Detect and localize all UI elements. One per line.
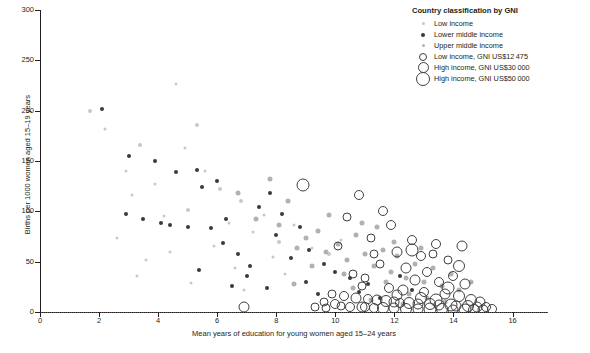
data-point bbox=[274, 233, 278, 237]
legend-item[interactable]: High income, GNI US$50 000 bbox=[412, 73, 590, 84]
data-point bbox=[289, 256, 293, 260]
open-circle-icon bbox=[419, 53, 427, 61]
data-point bbox=[236, 252, 240, 256]
data-point bbox=[251, 231, 254, 234]
data-point bbox=[197, 268, 201, 272]
data-point bbox=[292, 281, 297, 286]
data-point bbox=[221, 241, 225, 245]
data-point bbox=[136, 274, 139, 277]
data-point bbox=[410, 274, 421, 285]
data-point bbox=[189, 281, 192, 284]
data-point bbox=[153, 159, 157, 163]
legend-title: Country classification by GNI bbox=[412, 6, 590, 16]
data-point bbox=[233, 266, 236, 269]
data-point bbox=[400, 303, 412, 312]
legend-item-label: Low income, GNI US$12 475 bbox=[434, 52, 528, 62]
x-axis-title: Mean years of education for young women … bbox=[40, 329, 548, 338]
legend-item[interactable]: Upper middle income bbox=[412, 40, 590, 51]
legend: Country classification by GNI Low income… bbox=[412, 6, 590, 84]
data-point bbox=[277, 223, 282, 228]
data-point bbox=[215, 179, 219, 183]
data-point bbox=[422, 267, 432, 277]
data-point bbox=[415, 292, 427, 304]
filled-circle-icon bbox=[421, 33, 425, 37]
legend-item[interactable]: High income, GNI US$30 000 bbox=[412, 62, 590, 73]
data-point bbox=[238, 301, 249, 312]
data-point bbox=[115, 236, 118, 239]
data-point bbox=[316, 292, 320, 296]
data-point bbox=[354, 190, 364, 200]
data-point bbox=[141, 217, 145, 221]
x-tick-label: 16 bbox=[501, 316, 525, 325]
legend-item[interactable]: Low income bbox=[412, 18, 590, 29]
data-point bbox=[475, 296, 486, 307]
data-point bbox=[100, 107, 104, 111]
data-point bbox=[130, 194, 133, 197]
data-point bbox=[286, 199, 291, 204]
data-point bbox=[224, 217, 228, 221]
data-point bbox=[453, 260, 465, 272]
data-point bbox=[406, 243, 419, 256]
legend-item[interactable]: Low income, GNI US$12 475 bbox=[412, 51, 590, 62]
data-point bbox=[441, 281, 454, 294]
y-tick bbox=[35, 211, 40, 212]
data-point bbox=[457, 240, 468, 251]
data-point bbox=[103, 127, 106, 130]
data-point bbox=[398, 274, 402, 278]
legend-marker-icon bbox=[412, 33, 434, 37]
data-point bbox=[303, 235, 308, 240]
data-point bbox=[357, 281, 366, 290]
data-point bbox=[124, 212, 128, 216]
data-point bbox=[209, 226, 213, 230]
data-point bbox=[366, 233, 375, 242]
data-point bbox=[296, 179, 309, 192]
legend-item-label: High income, GNI US$50 000 bbox=[434, 74, 530, 84]
data-point bbox=[359, 221, 364, 226]
data-point bbox=[339, 291, 349, 301]
data-point bbox=[138, 143, 142, 147]
data-point bbox=[145, 258, 148, 261]
data-point bbox=[159, 221, 163, 225]
y-tick-label: 300 bbox=[8, 6, 34, 14]
filled-circle-icon bbox=[422, 44, 425, 47]
x-tick-label: 12 bbox=[382, 316, 406, 325]
data-point bbox=[294, 245, 299, 250]
data-point bbox=[280, 212, 284, 216]
data-point bbox=[328, 289, 337, 298]
legend-marker-icon bbox=[412, 22, 434, 25]
legend-item[interactable]: Lower middle income bbox=[412, 29, 590, 40]
data-point bbox=[354, 233, 359, 238]
data-point bbox=[431, 239, 441, 249]
data-point bbox=[253, 217, 258, 222]
data-point bbox=[310, 302, 319, 311]
x-tick-label: 4 bbox=[146, 316, 170, 325]
data-point bbox=[413, 261, 418, 266]
data-point bbox=[333, 270, 337, 274]
data-point bbox=[124, 170, 127, 173]
data-point bbox=[239, 199, 243, 203]
legend-item-label: Low income bbox=[434, 19, 473, 29]
data-point bbox=[195, 123, 199, 127]
data-point bbox=[389, 302, 400, 312]
data-point bbox=[174, 170, 178, 174]
data-point bbox=[163, 215, 166, 218]
data-point bbox=[304, 280, 308, 284]
data-point bbox=[168, 223, 172, 227]
data-point bbox=[413, 303, 424, 312]
legend-marker-icon bbox=[412, 72, 434, 86]
data-point bbox=[448, 304, 459, 312]
data-point bbox=[230, 284, 234, 288]
data-point bbox=[345, 257, 350, 262]
data-point bbox=[369, 249, 378, 258]
y-tick bbox=[35, 10, 40, 11]
data-point bbox=[272, 255, 275, 258]
x-tick-label: 0 bbox=[28, 316, 52, 325]
data-point bbox=[401, 262, 412, 273]
x-tick-label: 14 bbox=[441, 316, 465, 325]
legend-item-label: Upper middle income bbox=[434, 41, 503, 51]
data-point bbox=[200, 185, 204, 189]
data-point bbox=[374, 225, 379, 230]
data-point bbox=[392, 239, 397, 244]
data-point bbox=[218, 187, 222, 191]
legend-item-label: High income, GNI US$30 000 bbox=[434, 63, 530, 73]
